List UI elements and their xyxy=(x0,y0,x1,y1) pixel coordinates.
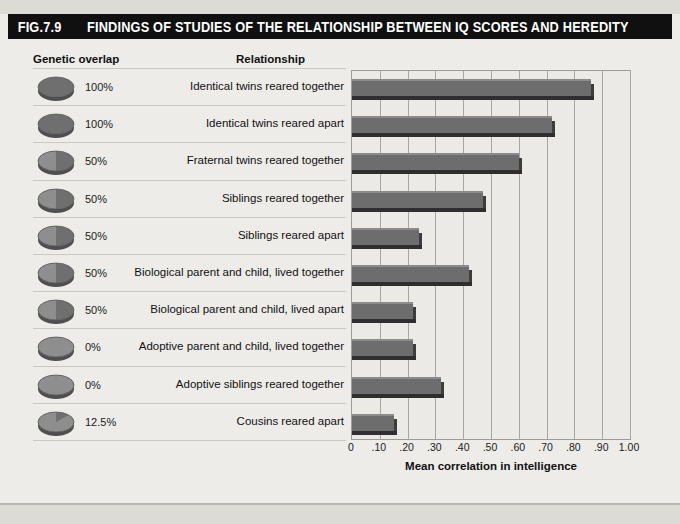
x-axis-tick-label: .10 xyxy=(371,441,386,453)
genetic-overlap-percent: 50% xyxy=(85,304,107,316)
relationship-label: Adoptive siblings reared together xyxy=(176,378,344,390)
genetic-overlap-percent: 100% xyxy=(85,81,113,93)
bar-row xyxy=(352,145,630,182)
x-axis-tick-labels: 0.10.20.30.40.50.60.70.80.901.00 xyxy=(351,441,631,457)
genetic-overlap-disc xyxy=(35,112,81,138)
x-axis-title: Mean correlation in intelligence xyxy=(351,460,631,472)
genetic-overlap-percent: 50% xyxy=(85,267,107,279)
genetic-overlap-disc-icon xyxy=(35,112,81,138)
bar xyxy=(352,265,469,282)
genetic-overlap-disc xyxy=(35,410,81,436)
bar xyxy=(352,302,413,319)
genetic-overlap-disc-icon xyxy=(35,149,81,175)
relationship-label: Biological parent and child, lived toget… xyxy=(134,266,344,278)
genetic-overlap-percent: 50% xyxy=(85,230,107,242)
x-axis-tick-label: .50 xyxy=(483,441,498,453)
relationship-label: Fraternal twins reared together xyxy=(187,154,344,166)
genetic-overlap-disc xyxy=(35,75,81,101)
bar-row xyxy=(352,220,630,257)
genetic-overlap-disc xyxy=(35,149,81,175)
genetic-overlap-disc-icon xyxy=(35,224,81,250)
bar xyxy=(352,191,483,208)
table-row: 100%Identical twins reared together xyxy=(33,68,346,105)
figure-title-bar: FIG.7.9 FINDINGS OF STUDIES OF THE RELAT… xyxy=(8,14,672,39)
table-row: 12.5%Cousins reared apart xyxy=(33,403,346,440)
x-axis-tick-label: .40 xyxy=(455,441,470,453)
bar xyxy=(352,228,419,245)
bar-row xyxy=(352,71,630,108)
gridline xyxy=(630,71,631,439)
figure-container: FIG.7.9 FINDINGS OF STUDIES OF THE RELAT… xyxy=(0,0,680,524)
genetic-overlap-disc xyxy=(35,224,81,250)
relationship-label: Siblings reared together xyxy=(222,192,344,204)
bottom-margin-strip xyxy=(0,505,680,524)
genetic-overlap-disc xyxy=(35,373,81,399)
x-axis-tick-label: .70 xyxy=(538,441,553,453)
genetic-overlap-percent: 50% xyxy=(85,155,107,167)
relationship-label: Biological parent and child, lived apart xyxy=(150,303,344,315)
x-axis-tick-label: .30 xyxy=(427,441,442,453)
table-row: 100%Identical twins reared apart xyxy=(33,105,346,142)
relationship-label: Adoptive parent and child, lived togethe… xyxy=(139,340,344,352)
genetic-overlap-disc-icon xyxy=(35,410,81,436)
table-row: 50%Fraternal twins reared together xyxy=(33,142,346,179)
genetic-overlap-disc xyxy=(35,187,81,213)
genetic-overlap-disc-icon xyxy=(35,335,81,361)
table-row: 50%Biological parent and child, lived to… xyxy=(33,254,346,291)
table-row: 50%Siblings reared apart xyxy=(33,217,346,254)
bar xyxy=(352,153,519,170)
x-axis-tick-label: 0 xyxy=(348,441,354,453)
figure-title: FINDINGS OF STUDIES OF THE RELATIONSHIP … xyxy=(87,19,629,35)
bar xyxy=(352,79,591,96)
relationship-label: Siblings reared apart xyxy=(238,229,344,241)
bar-row xyxy=(352,294,630,331)
genetic-overlap-percent: 0% xyxy=(85,379,101,391)
bar-row xyxy=(352,406,630,443)
table-row: 0%Adoptive parent and child, lived toget… xyxy=(33,328,346,365)
bar-row xyxy=(352,257,630,294)
genetic-overlap-disc-icon xyxy=(35,298,81,324)
relationship-table: 100%Identical twins reared together100%I… xyxy=(33,68,346,440)
genetic-overlap-disc xyxy=(35,261,81,287)
table-row: 0%Adoptive siblings reared together xyxy=(33,366,346,403)
x-axis-tick-label: .90 xyxy=(594,441,609,453)
bar xyxy=(352,377,441,394)
genetic-overlap-disc-icon xyxy=(35,75,81,101)
relationship-label: Cousins reared apart xyxy=(237,415,344,427)
relationship-label: Identical twins reared apart xyxy=(206,117,344,129)
figure-number: FIG.7.9 xyxy=(8,19,61,35)
genetic-overlap-percent: 100% xyxy=(85,118,113,130)
bar-row xyxy=(352,331,630,368)
x-axis-tick-label: .80 xyxy=(566,441,581,453)
genetic-overlap-percent: 50% xyxy=(85,193,107,205)
relationship-label: Identical twins reared together xyxy=(190,80,344,92)
genetic-overlap-disc-icon xyxy=(35,373,81,399)
bar-row xyxy=(352,183,630,220)
table-bottom-divider xyxy=(33,440,346,441)
bar-row xyxy=(352,108,630,145)
x-axis-tick-label: .60 xyxy=(510,441,525,453)
genetic-overlap-percent: 0% xyxy=(85,341,101,353)
bar-row xyxy=(352,369,630,406)
bar xyxy=(352,414,394,431)
x-axis-tick-label: .20 xyxy=(399,441,414,453)
bar xyxy=(352,339,413,356)
top-margin-strip xyxy=(0,0,680,14)
genetic-overlap-percent: 12.5% xyxy=(85,416,116,428)
column-header-genetic-overlap: Genetic overlap xyxy=(33,53,119,65)
genetic-overlap-disc-icon xyxy=(35,187,81,213)
genetic-overlap-disc xyxy=(35,335,81,361)
bar-chart-plot-area xyxy=(351,70,631,440)
genetic-overlap-disc-icon xyxy=(35,261,81,287)
x-axis-tick-label: 1.00 xyxy=(619,441,639,453)
table-row: 50%Biological parent and child, lived ap… xyxy=(33,291,346,328)
bar xyxy=(352,116,552,133)
column-header-relationship: Relationship xyxy=(236,53,305,65)
genetic-overlap-disc xyxy=(35,298,81,324)
table-row: 50%Siblings reared together xyxy=(33,180,346,217)
